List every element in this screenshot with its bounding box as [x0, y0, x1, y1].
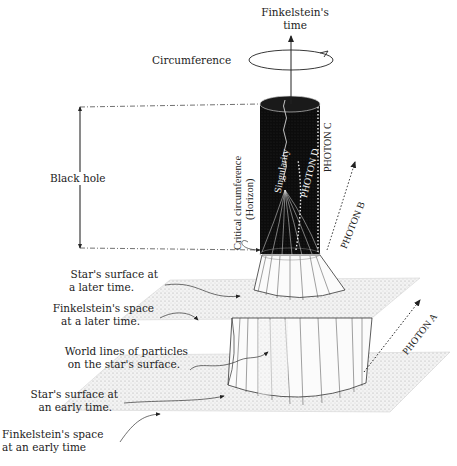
horizon-label: Critical circumference (Horizon): [232, 156, 256, 250]
black-hole-label: Black hole: [48, 172, 108, 185]
label-line: Star's surface at: [6, 388, 118, 401]
label-line: Finkelstein's space: [2, 428, 103, 441]
finkelstein-space-later-label: Finkelstein's space at a later time.: [28, 302, 154, 328]
circumference-label: Circumference: [152, 54, 231, 67]
finkelstein-time-line2: time: [250, 19, 340, 32]
label-line: an early time.: [6, 401, 118, 414]
star-cone-later: [254, 255, 345, 300]
label-line: on the star's surface.: [30, 358, 188, 371]
star-surface-early-label: Star's surface at an early time.: [6, 388, 118, 414]
finkelstein-time-line1: Finkelstein's: [250, 6, 340, 19]
label-line: Star's surface at: [40, 268, 158, 281]
finkelstein-time-label: Finkelstein's time: [250, 6, 340, 32]
label-line: at a later time.: [28, 315, 154, 328]
world-lines-label: World lines of particles on the star's s…: [30, 345, 188, 371]
horizon-label-line1: Critical circumference: [232, 156, 244, 250]
label-line: at an early time: [2, 441, 103, 454]
label-line: a later time.: [40, 281, 158, 294]
star-surface-later-label: Star's surface at a later time.: [40, 268, 158, 294]
label-line: Finkelstein's space: [28, 302, 154, 315]
finkelstein-space-early-label: Finkelstein's space at an early time: [2, 428, 103, 454]
photon-c-label: PHOTON C: [322, 122, 333, 172]
horizon-label-line2: (Horizon): [244, 156, 256, 250]
label-line: World lines of particles: [30, 345, 188, 358]
